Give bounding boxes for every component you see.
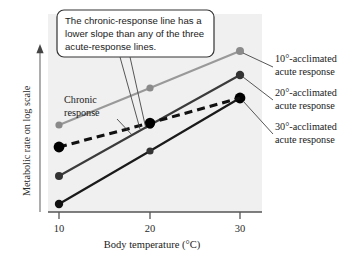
data-point [146, 84, 153, 91]
y-axis-title: Metabolic rate on log scale [21, 85, 32, 196]
legend-label-10-line-2: acute response [275, 66, 335, 77]
figure-container: Metabolic rate on log scale 10 20 30 Bod… [0, 0, 359, 254]
callout-line-2: lower slope than any of the three [65, 28, 204, 39]
y-axis-arrow [36, 44, 43, 53]
legend-label-30-line-1: 30°-acclimated [275, 121, 337, 132]
x-tick-label-10: 10 [54, 223, 65, 234]
data-point [145, 118, 155, 128]
callout-line-1: The chronic-response line has a [65, 15, 202, 26]
legend-label-20-line-1: 20°-acclimated [275, 87, 337, 98]
data-point [55, 172, 63, 180]
metabolic-rate-chart: Metabolic rate on log scale 10 20 30 Bod… [0, 0, 359, 254]
x-axis-title: Body temperature (°C) [104, 239, 201, 251]
y-axis [36, 44, 43, 212]
data-point [54, 142, 65, 153]
legend-label-10-line-1: 10°-acclimated [275, 53, 337, 64]
data-point [236, 71, 244, 79]
chronic-response-label-line-1: Chronic [64, 94, 97, 105]
legend-label-30-line-2: acute response [275, 134, 335, 145]
data-point [55, 200, 63, 208]
callout-line-3: acute-response lines. [65, 41, 156, 52]
x-axis [48, 212, 262, 219]
data-point [146, 147, 153, 154]
data-point [236, 47, 244, 55]
legend-label-20-line-2: acute response [275, 100, 335, 111]
x-tick-label-20: 20 [145, 223, 156, 234]
x-tick-label-30: 30 [235, 223, 246, 234]
chronic-response-label-line-2: response [64, 107, 100, 118]
data-point [55, 121, 62, 128]
